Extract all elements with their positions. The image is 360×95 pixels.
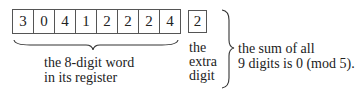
extra-digit-label: the extra digit xyxy=(189,41,217,83)
conclusion-line: 9 digits is 0 (mod 5). xyxy=(238,56,355,71)
under-brace-icon xyxy=(14,40,178,50)
conclusion-line: the sum of all xyxy=(238,41,355,56)
conclusion-text: the sum of all 9 digits is 0 (mod 5). xyxy=(238,41,355,71)
register-label-line: in its register xyxy=(44,70,134,85)
register-label: the 8-digit word in its register xyxy=(44,55,134,85)
extra-label-line: extra xyxy=(189,55,217,69)
right-brace-icon xyxy=(222,10,234,88)
extra-label-line: the xyxy=(189,41,217,55)
register-label-line: the 8-digit word xyxy=(44,55,134,70)
extra-digit-box: 2 xyxy=(188,10,207,33)
extra-label-line: digit xyxy=(189,69,217,83)
